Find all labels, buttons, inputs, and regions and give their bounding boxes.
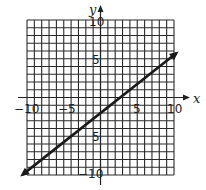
y-tick-label-pos10: 10 <box>89 15 104 29</box>
x-axis-label: x <box>193 91 201 106</box>
y-axis-arrow-icon <box>98 5 104 12</box>
x-tick-label-neg5: −5 <box>58 102 76 116</box>
data-line <box>23 53 177 174</box>
x-tick-label-neg10: −10 <box>14 102 39 116</box>
x-axis-arrow-icon <box>183 95 190 101</box>
x-tick-label-pos5: 5 <box>133 102 141 116</box>
y-tick-label-neg10: −10 <box>78 167 103 181</box>
plotted-line <box>20 51 178 176</box>
x-tick-label-pos10: 10 <box>167 102 182 116</box>
coordinate-plane: y x −10 −5 5 10 10 5 5 −10 <box>0 0 206 190</box>
y-tick-label-pos5: 5 <box>92 53 100 67</box>
y-tick-label-neg5: 5 <box>92 130 100 144</box>
